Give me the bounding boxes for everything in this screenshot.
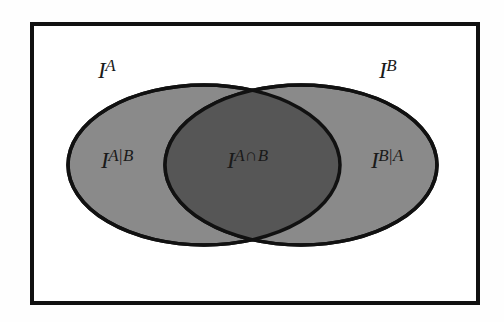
label-set-a: IA: [98, 58, 116, 82]
label-a-given-b-sup-left: A: [108, 146, 118, 165]
label-a-given-b: IA|B: [101, 148, 133, 172]
label-set-b-sup: B: [386, 56, 396, 75]
label-b-given-a-sup-left: B: [378, 146, 388, 165]
label-a-given-b-sup: A|B: [108, 146, 133, 165]
label-b-given-a: IB|A: [371, 148, 403, 172]
label-a-intersect-b-sup: A∩B: [234, 146, 268, 165]
label-b-given-a-sup: B|A: [378, 146, 403, 165]
venn-diagram-figure: IA IB IA|B IA∩B IB|A: [0, 0, 504, 322]
label-b-given-a-sup-right: A: [393, 146, 403, 165]
label-a-intersect-b-sup-right: B: [258, 146, 268, 165]
label-set-b: IB: [379, 58, 397, 82]
label-set-a-sup: A: [105, 56, 115, 75]
label-a-intersect-b-sup-left: A: [234, 146, 244, 165]
label-a-intersect-b: IA∩B: [227, 148, 268, 172]
intersection-symbol-icon: ∩: [245, 146, 258, 165]
label-a-given-b-sup-right: B: [123, 146, 133, 165]
